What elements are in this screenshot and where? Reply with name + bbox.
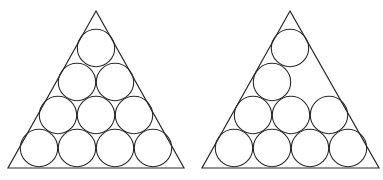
packed-circle <box>291 129 328 166</box>
packed-circle <box>96 63 133 100</box>
packed-circle <box>58 129 95 166</box>
packed-circle <box>77 96 114 133</box>
packed-circle <box>329 129 366 166</box>
packed-circle <box>234 96 271 133</box>
packed-circle <box>58 63 95 100</box>
packed-circle <box>115 96 152 133</box>
packed-circle <box>310 96 347 133</box>
packed-circle <box>272 96 309 133</box>
right-triangle-panel <box>202 11 379 168</box>
packed-circle <box>271 29 308 66</box>
packed-circle <box>96 129 133 166</box>
packed-circle <box>20 129 57 166</box>
packed-circle <box>134 129 171 166</box>
left-triangle-panel <box>8 11 184 168</box>
packed-circle <box>253 63 290 100</box>
packed-circle <box>77 29 114 66</box>
triangle-outline <box>8 11 184 168</box>
packed-circle <box>215 129 252 166</box>
packed-circle <box>253 129 290 166</box>
circle-packing-figure <box>0 0 383 180</box>
packed-circle <box>39 96 76 133</box>
